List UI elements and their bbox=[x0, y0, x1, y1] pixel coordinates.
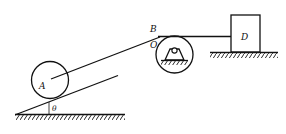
left-ground bbox=[15, 115, 125, 121]
block-D-label: D bbox=[240, 32, 248, 42]
point-B-label: B bbox=[149, 24, 157, 34]
right-ground bbox=[210, 53, 278, 59]
pulley-O-label: O bbox=[150, 40, 158, 50]
block-D: D bbox=[231, 15, 260, 52]
mechanics-diagram: θ A O B D bbox=[0, 0, 286, 134]
angle-theta-marker: θ bbox=[49, 102, 57, 115]
theta-label: θ bbox=[52, 104, 57, 113]
pulley-O: O bbox=[150, 36, 193, 73]
disc-A-label: A bbox=[38, 81, 46, 91]
disc-A: A bbox=[32, 62, 69, 99]
cable-inclined bbox=[51, 37, 160, 79]
